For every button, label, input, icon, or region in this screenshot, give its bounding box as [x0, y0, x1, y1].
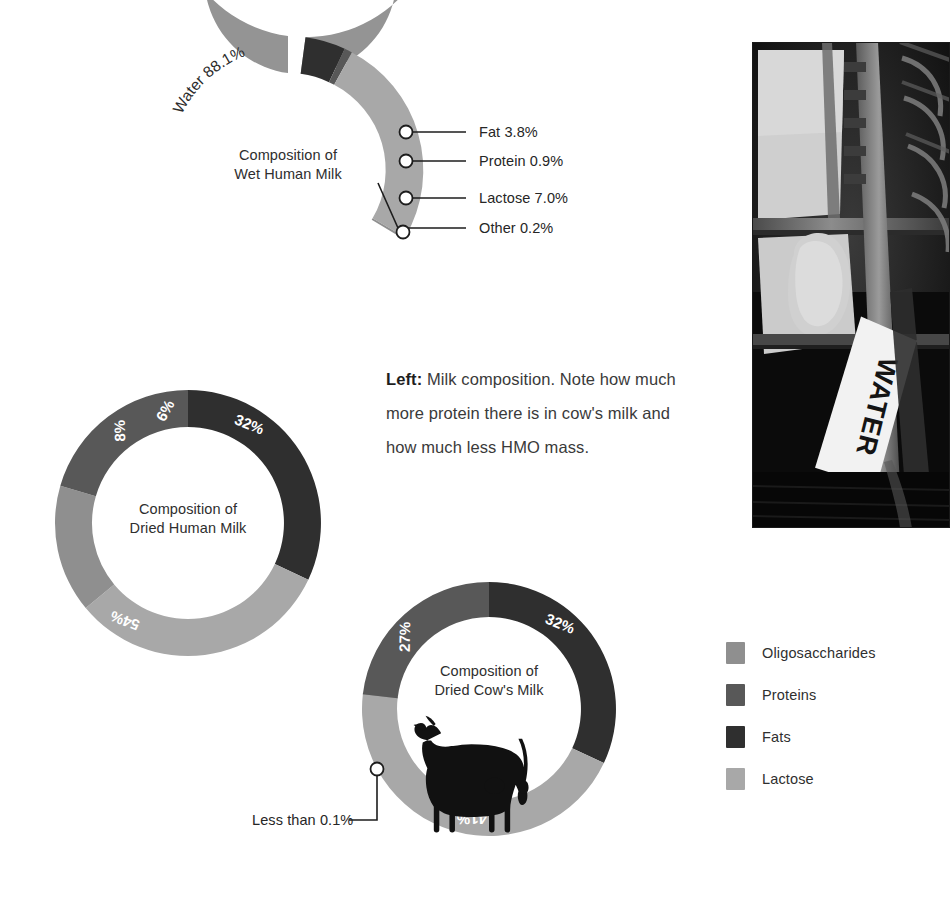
slice-proteins[interactable] [363, 582, 489, 698]
photo-water-bottle: WATER [752, 42, 950, 528]
legend-swatch-icon [726, 726, 745, 748]
legend-swatch-icon [726, 684, 745, 706]
callout-label-less-than-point-one: Less than 0.1% [252, 812, 353, 828]
figure-canvas: Water 88.1% Composition of Wet Human Mil… [0, 0, 950, 914]
donut-dried-cow-svg: 32% 41% 27% [355, 574, 623, 844]
callout-label-fat: Fat 3.8% [479, 124, 538, 140]
legend-swatch-icon [726, 768, 745, 790]
slice-oligosaccharides[interactable] [55, 486, 114, 608]
legend-swatch-icon [726, 642, 745, 664]
svg-text:27%: 27% [396, 622, 414, 652]
donut-chart-dried-cow-milk: 32% 41% 27% Compos [355, 574, 623, 844]
svg-text:8%: 8% [111, 420, 128, 442]
legend-item-fats[interactable]: Fats [726, 716, 936, 758]
callout-label-other: Other 0.2% [479, 220, 553, 236]
legend: Oligosaccharides Proteins Fats Lactose [726, 632, 936, 800]
legend-label: Fats [762, 729, 791, 745]
donut-chart-dried-human-milk: 32% 54% 8% 6% Composition of Dried Human… [48, 382, 328, 664]
caption-body: Milk composition. Note how much more pro… [386, 370, 676, 456]
legend-label: Oligosaccharides [762, 645, 876, 661]
legend-item-oligosaccharides[interactable]: Oligosaccharides [726, 632, 936, 674]
legend-item-proteins[interactable]: Proteins [726, 674, 936, 716]
callout-label-lactose: Lactose 7.0% [479, 190, 568, 206]
legend-label: Proteins [762, 687, 816, 703]
photo-svg: WATER [752, 42, 950, 528]
figure-caption: Left: Milk composition. Note how much mo… [386, 362, 686, 464]
caption-prefix: Left: [386, 370, 422, 388]
slice-fats[interactable] [489, 582, 616, 763]
donut-dried-human-svg: 32% 54% 8% 6% [48, 382, 328, 664]
donut-chart-wet-human-milk: Water 88.1% Composition of Wet Human Mil… [148, 28, 428, 310]
slice-pct-proteins: 27% [396, 622, 414, 652]
slice-pct-oligosaccharides: 8% [111, 420, 128, 442]
donut-wet-svg: Water 88.1% [148, 28, 428, 310]
callout-label-protein: Protein 0.9% [479, 153, 563, 169]
legend-label: Lactose [762, 771, 814, 787]
water-arc-label: Water 88.1% [169, 43, 247, 116]
slice-lactose[interactable] [334, 52, 423, 237]
legend-item-lactose[interactable]: Lactose [726, 758, 936, 800]
